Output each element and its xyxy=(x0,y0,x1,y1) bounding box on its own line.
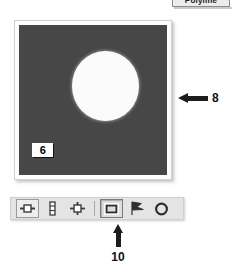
callout-annotation-10: 10 xyxy=(103,224,133,268)
cross-profile-icon xyxy=(69,201,86,216)
horizontal-profile-tool[interactable] xyxy=(16,199,39,218)
vertical-profile-tool[interactable] xyxy=(41,199,64,218)
callout-number-8: 8 xyxy=(212,92,219,104)
ellipse-roi-icon xyxy=(154,202,169,216)
vertical-profile-icon xyxy=(46,201,59,216)
tooltip-shadow xyxy=(174,7,232,9)
rectangle-roi-tool[interactable] xyxy=(100,199,123,218)
tooltip-popup: Polyline xyxy=(172,0,230,7)
toolbar-separator xyxy=(94,201,95,216)
tooltip-label: Polyline xyxy=(173,0,229,6)
rectangle-roi-icon xyxy=(104,203,119,215)
image-canvas[interactable]: 6 xyxy=(19,25,167,175)
bright-blob-region xyxy=(72,51,139,122)
polygon-roi-tool[interactable] xyxy=(125,199,148,218)
callout-annotation-8: 8 xyxy=(178,89,232,107)
arrow-up-icon xyxy=(113,224,124,247)
arrow-left-icon xyxy=(178,93,208,104)
ellipse-roi-tool[interactable] xyxy=(150,199,173,218)
tool-palette[interactable] xyxy=(10,197,184,220)
polygon-roi-icon xyxy=(129,201,145,216)
callout-number-10: 10 xyxy=(111,251,124,264)
roi-number-label: 6 xyxy=(32,143,53,157)
cross-profile-tool[interactable] xyxy=(66,199,89,218)
image-display-panel[interactable]: 6 xyxy=(14,20,172,180)
horizontal-profile-icon xyxy=(19,202,36,215)
